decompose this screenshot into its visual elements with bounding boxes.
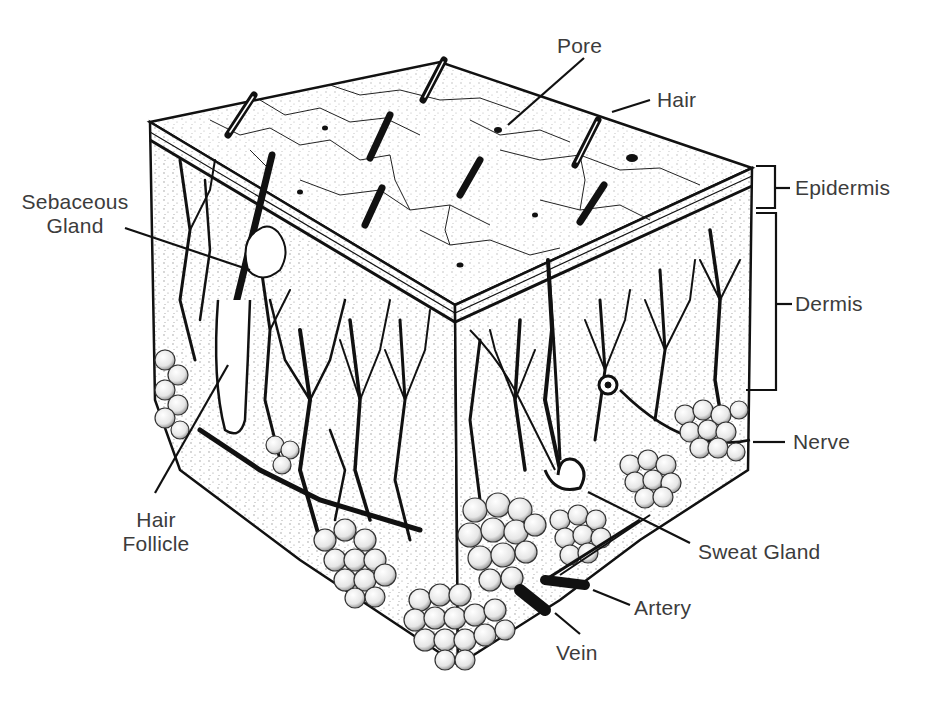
label-sweat-gland: Sweat Gland — [698, 540, 820, 564]
label-artery: Artery — [634, 596, 691, 620]
label-sebaceous-gland: Sebaceous Gland — [12, 190, 138, 238]
label-vein: Vein — [556, 641, 598, 665]
label-pore: Pore — [557, 34, 602, 58]
label-sebaceous-gland-line2: Gland — [12, 214, 138, 238]
label-hair-follicle-line2: Follicle — [108, 532, 204, 556]
label-dermis: Dermis — [795, 292, 863, 316]
label-epidermis: Epidermis — [795, 176, 890, 200]
label-nerve: Nerve — [793, 430, 850, 454]
label-hair: Hair — [657, 88, 696, 112]
epidermis-bracket — [756, 166, 775, 208]
hair-leader — [612, 100, 650, 112]
label-hair-follicle: Hair Follicle — [108, 508, 204, 556]
vein-leader — [555, 613, 580, 634]
artery-leader — [593, 590, 630, 605]
label-sebaceous-gland-line1: Sebaceous — [12, 190, 138, 214]
skin-block-illustration — [0, 0, 928, 706]
label-hair-follicle-line1: Hair — [108, 508, 204, 532]
skin-diagram: Pore Hair Epidermis Dermis Nerve Sweat G… — [0, 0, 928, 706]
